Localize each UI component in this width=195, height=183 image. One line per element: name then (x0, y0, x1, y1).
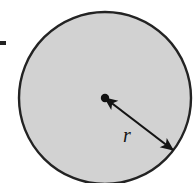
radius-label-r: r (123, 124, 131, 146)
circle-radius-diagram-canvas: r (0, 0, 195, 183)
circle-radius-figure: r (0, 0, 195, 183)
left-edge-tick-mark (0, 41, 6, 45)
center-dot (101, 94, 109, 102)
